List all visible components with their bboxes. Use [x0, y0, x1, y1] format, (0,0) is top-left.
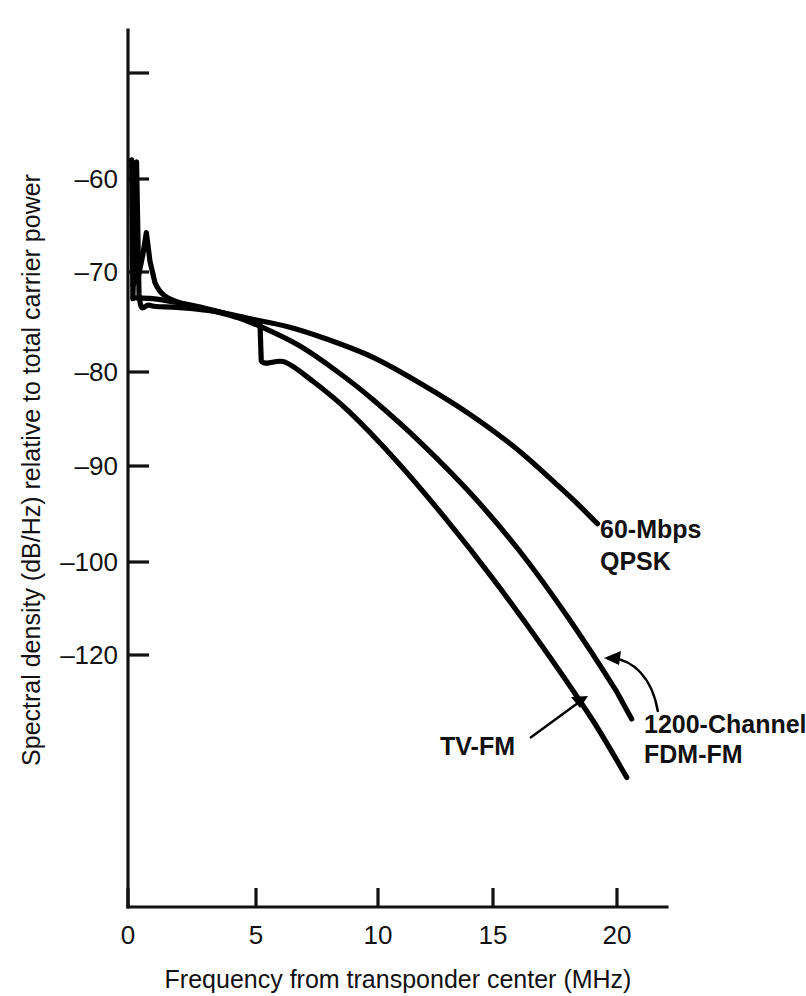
y-tick-label-minus120: –120 [60, 640, 118, 670]
y-axis-title: Spectral density (dB/Hz) relative to tot… [17, 174, 45, 766]
y-tick-label-minus80: –80 [75, 357, 118, 387]
label-qpsk-line1: 60-Mbps [600, 515, 701, 543]
series-path-qpsk [132, 160, 598, 524]
label-qpsk-line2: QPSK [600, 547, 671, 575]
fdmfm-leader-arrowhead [604, 651, 621, 665]
label-fdmfm-line2: FDM-FM [644, 740, 743, 768]
spectral-density-chart: –60 –70 –80 –90 –100 –120 0 5 10 15 20 F… [0, 0, 806, 996]
x-tick-label-15: 15 [479, 920, 508, 950]
axis-group [128, 30, 667, 907]
y-tick-label-minus100: –100 [60, 547, 118, 577]
label-fdmfm-line1: 1200-Channel [644, 710, 806, 738]
x-tick-label-20: 20 [603, 920, 632, 950]
fdmfm-leader-curve [612, 658, 658, 712]
y-tick-label-minus70: –70 [75, 257, 118, 287]
x-tick-label-5: 5 [249, 920, 263, 950]
x-tick-labels: 0 5 10 15 20 [121, 920, 632, 950]
y-tick-label-minus90: –90 [75, 451, 118, 481]
x-axis-title: Frequency from transponder center (MHz) [165, 965, 632, 993]
tvfm-leader-line [530, 700, 582, 738]
label-tvfm: TV-FM [440, 732, 515, 760]
series-path-tvfm [133, 233, 627, 778]
y-tick-label-minus60: –60 [75, 164, 118, 194]
y-tick-labels: –60 –70 –80 –90 –100 –120 [60, 164, 118, 670]
series-labels: 60-Mbps QPSK TV-FM 1200-Channel FDM-FM [440, 515, 806, 768]
x-tick-marks [128, 888, 617, 907]
figure-container: –60 –70 –80 –90 –100 –120 0 5 10 15 20 F… [0, 0, 806, 996]
x-tick-label-0: 0 [121, 920, 135, 950]
x-tick-label-10: 10 [364, 920, 393, 950]
data-series-group [132, 160, 632, 778]
